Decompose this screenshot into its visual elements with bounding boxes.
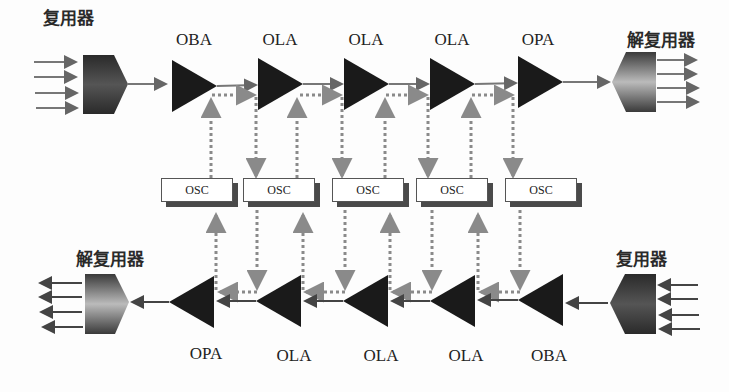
top-multiplexer-shape: [83, 55, 128, 114]
top-demultiplexer-label: 解复用器: [627, 26, 695, 51]
osc-box-5: OSC: [505, 178, 577, 202]
bottom-amp-label-5: OBA: [531, 346, 567, 366]
bottom-output-arrows: [40, 283, 83, 327]
top-multiplexer-label: 复用器: [43, 4, 94, 29]
bottom-multiplexer-shape: [610, 274, 656, 334]
top-amp-label-3: OLA: [349, 30, 384, 50]
wdm-system-diagram: 复用器 OBA OLA OLA OLA OPA 解复用器 OSC OSC OSC…: [0, 0, 729, 392]
bottom-demultiplexer-shape: [85, 274, 129, 334]
top-input-arrows: [34, 62, 77, 108]
top-demultiplexer-shape: [612, 52, 656, 112]
osc-box-2: OSC: [243, 178, 315, 202]
top-amp-label-1: OBA: [176, 30, 212, 50]
bottom-amp-label-2: OLA: [277, 346, 312, 366]
bottom-amp-label-4: OLA: [449, 346, 484, 366]
osc-box-4: OSC: [416, 178, 488, 202]
top-amp-label-4: OLA: [435, 30, 470, 50]
bottom-amp-label-3: OLA: [364, 346, 399, 366]
top-amp-label-2: OLA: [263, 30, 298, 50]
osc-box-1: OSC: [161, 178, 233, 202]
bottom-amp-label-1: OPA: [190, 344, 222, 364]
osc-box-3: OSC: [332, 178, 404, 202]
bottom-demultiplexer-label: 解复用器: [76, 245, 144, 270]
top-output-arrows: [657, 60, 698, 102]
bottom-multiplexer-label: 复用器: [616, 245, 667, 270]
bottom-input-arrows: [659, 285, 700, 329]
top-amp-label-5: OPA: [522, 30, 554, 50]
